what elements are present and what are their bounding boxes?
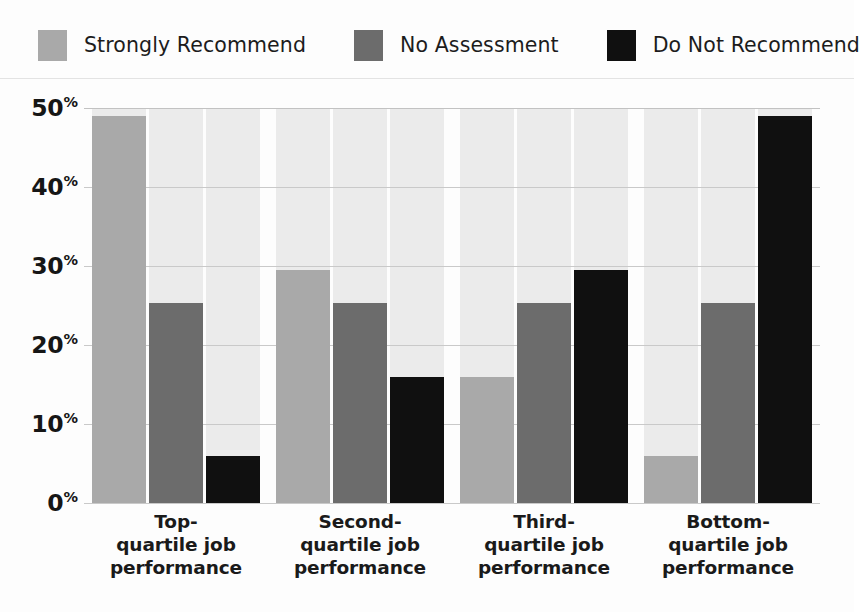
x-axis-category-line: quartile job [452,533,636,556]
x-axis-category-line: performance [452,556,636,579]
x-axis: Top-quartile jobperformanceSecond-quarti… [84,510,820,590]
gridline [84,187,820,188]
x-axis-category-line: Top- [84,510,268,533]
bar [517,303,571,503]
x-axis-category-line: performance [84,556,268,579]
bar [206,456,260,503]
gridline [84,108,820,109]
gridline [84,503,820,504]
y-axis-tick-value: 10 [31,410,63,438]
chart-legend: Strongly RecommendNo AssessmentDo Not Re… [0,22,854,68]
y-axis-tick-label: 50% [4,94,78,122]
legend-item-label: Strongly Recommend [84,33,306,57]
bar [574,270,628,503]
bar [390,377,444,503]
y-axis-tick-value: 40 [31,173,63,201]
x-axis-category-label: Top-quartile jobperformance [84,510,268,579]
y-axis-tick-label: 30% [4,252,78,280]
bar [644,456,698,503]
x-axis-category-line: Second- [268,510,452,533]
x-axis-category-line: performance [268,556,452,579]
y-axis-tick-value: 0 [47,489,63,517]
x-axis-category-label: Second-quartile jobperformance [268,510,452,579]
y-axis-tick-value: 30 [31,252,63,280]
legend-item: No Assessment [354,30,559,61]
x-axis-category-line: Third- [452,510,636,533]
bar [460,377,514,503]
y-axis-tick-percent-sign: % [63,94,78,110]
column-band [206,108,260,503]
legend-item-label: Do Not Recommend [653,33,860,57]
y-axis-tick-value: 50 [31,94,63,122]
legend-item: Strongly Recommend [38,30,306,61]
y-axis: 50%40%30%20%10%0% [0,108,78,503]
y-axis-tick-percent-sign: % [63,173,78,189]
x-axis-category-label: Third-quartile jobperformance [452,510,636,579]
bar [758,116,812,503]
legend-swatch-strongly-recommend [38,30,67,61]
y-axis-tick-value: 20 [31,331,63,359]
bar [701,303,755,503]
x-axis-category-line: Bottom- [636,510,820,533]
y-axis-tick-label: 10% [4,410,78,438]
plot-area [84,108,820,503]
x-axis-category-line: quartile job [268,533,452,556]
y-axis-tick-percent-sign: % [63,252,78,268]
x-axis-category-line: quartile job [84,533,268,556]
y-axis-tick-percent-sign: % [63,331,78,347]
legend-divider [0,78,854,79]
x-axis-category-line: quartile job [636,533,820,556]
gridline [84,266,820,267]
legend-swatch-do-not-recommend [607,30,636,61]
legend-item: Do Not Recommend [607,30,860,61]
y-axis-tick-label: 20% [4,331,78,359]
bar [92,116,146,503]
bar [333,303,387,503]
legend-swatch-no-assessment [354,30,383,61]
y-axis-tick-percent-sign: % [63,410,78,426]
y-axis-tick-label: 40% [4,173,78,201]
column-band [644,108,698,503]
bar [149,303,203,503]
bar [276,270,330,503]
x-axis-category-label: Bottom-quartile jobperformance [636,510,820,579]
y-axis-tick-label: 0% [4,489,78,517]
y-axis-tick-percent-sign: % [63,489,78,505]
x-axis-category-line: performance [636,556,820,579]
legend-item-label: No Assessment [400,33,559,57]
